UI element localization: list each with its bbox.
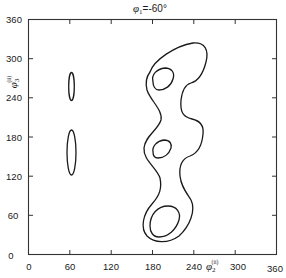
svg-text:360: 360 [267, 263, 283, 274]
svg-text:300: 300 [6, 53, 22, 64]
svg-text:240: 240 [6, 92, 22, 103]
svg-text:180: 180 [6, 132, 22, 143]
x-tick-labels: 0 60 120 180 240 300 360 [26, 261, 283, 274]
svg-text:240: 240 [186, 261, 202, 272]
svg-text:120: 120 [6, 171, 22, 182]
svg-text:0: 0 [8, 250, 13, 261]
left-upper-ellipse [69, 73, 75, 101]
y-tick-labels: 0 60 120 180 240 300 360 [6, 14, 22, 261]
inner-bottom-ellipse [150, 206, 180, 237]
svg-text:60: 60 [8, 210, 19, 221]
chart-title: φ1=-60° [133, 2, 167, 16]
svg-text:360: 360 [6, 14, 22, 25]
inner-top-ellipse [153, 68, 174, 90]
svg-text:0: 0 [26, 261, 31, 272]
plot-frame [29, 20, 277, 255]
x-ticks [70, 20, 235, 255]
contour-chart: φ1=-60° 0 60 120 180 240 300 360 [0, 0, 286, 278]
svg-text:300: 300 [230, 261, 246, 272]
large-outer-contour [143, 43, 207, 242]
svg-text:φ3(ii): φ3(ii) [6, 76, 21, 88]
left-lower-ellipse [67, 130, 76, 175]
svg-text:60: 60 [65, 261, 76, 272]
x-axis-label: φ2(ii) [206, 259, 218, 274]
contours [67, 43, 207, 242]
inner-middle-ellipse [153, 140, 171, 158]
y-axis-label: φ3(ii) [6, 76, 21, 88]
svg-text:180: 180 [145, 261, 161, 272]
svg-text:120: 120 [103, 261, 119, 272]
